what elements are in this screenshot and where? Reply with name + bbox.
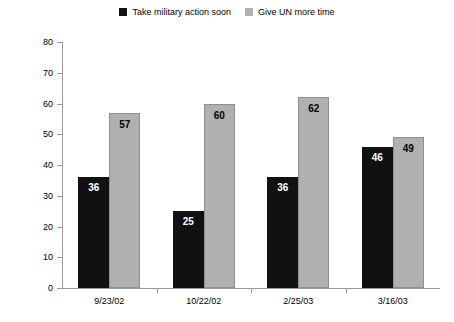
plot-area: 01020304050607080 3657256036624649 9/23/… — [62, 42, 440, 288]
legend-swatch-icon-series-1 — [245, 8, 253, 16]
legend-entry-take-military-action-soon: Take military action soon — [119, 7, 231, 17]
bar-chart: Take military action soon Give UN more t… — [0, 0, 454, 322]
x-tick-mark — [251, 288, 252, 293]
y-tick-mark — [57, 227, 62, 228]
bar-series-1-category-1: 60 — [204, 104, 235, 289]
legend-label-series-0: Take military action soon — [132, 7, 231, 17]
y-tick-mark — [57, 104, 62, 105]
bar-series-1-category-3: 49 — [393, 137, 424, 288]
bar-series-1-category-2: 62 — [298, 97, 329, 288]
bar-value-label: 62 — [299, 103, 328, 114]
y-axis-line — [62, 42, 63, 288]
bar-value-label: 60 — [205, 110, 234, 121]
y-tick-mark — [57, 196, 62, 197]
y-tick-mark — [57, 257, 62, 258]
y-tick-label: 40 — [43, 160, 53, 170]
bar-value-label: 25 — [173, 216, 204, 227]
y-tick-mark — [57, 165, 62, 166]
x-axis-label-1: 10/22/02 — [186, 296, 221, 306]
x-tick-mark — [157, 288, 158, 293]
y-tick-label: 60 — [43, 99, 53, 109]
bar-value-label: 36 — [78, 182, 109, 193]
legend-swatch-icon-series-0 — [119, 8, 127, 16]
y-tick-label: 70 — [43, 68, 53, 78]
bar-value-label: 57 — [110, 119, 139, 130]
legend-entry-give-un-more-time: Give UN more time — [245, 7, 335, 17]
bar-series-0-category-3: 46 — [362, 147, 393, 288]
bar-value-label: 49 — [394, 143, 423, 154]
y-tick-label: 30 — [43, 191, 53, 201]
bar-value-label: 36 — [267, 182, 298, 193]
bar-series-0-category-0: 36 — [78, 177, 109, 288]
y-tick-label: 80 — [43, 37, 53, 47]
y-tick-mark — [57, 73, 62, 74]
y-tick-mark — [57, 134, 62, 135]
x-axis-label-0: 9/23/02 — [94, 296, 124, 306]
y-tick-label: 0 — [48, 283, 53, 293]
y-tick-mark — [57, 288, 62, 289]
bar-series-1-category-0: 57 — [109, 113, 140, 288]
y-tick-label: 10 — [43, 252, 53, 262]
chart-legend: Take military action soon Give UN more t… — [0, 7, 454, 17]
bar-value-label: 46 — [362, 152, 393, 163]
y-tick-mark — [57, 42, 62, 43]
y-tick-label: 20 — [43, 222, 53, 232]
x-tick-mark — [346, 288, 347, 293]
y-tick-label: 50 — [43, 129, 53, 139]
legend-label-series-1: Give UN more time — [258, 7, 335, 17]
bar-series-0-category-2: 36 — [267, 177, 298, 288]
bar-series-0-category-1: 25 — [173, 211, 204, 288]
x-axis-label-2: 2/25/03 — [283, 296, 313, 306]
x-axis-label-3: 3/16/03 — [378, 296, 408, 306]
